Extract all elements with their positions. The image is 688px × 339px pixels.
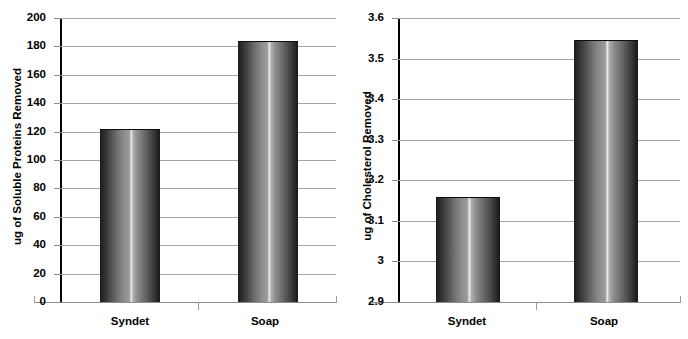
chart-panel-cholesterol: ug of Cholesterol Removed Syndet Soap 2.… xyxy=(344,0,688,339)
y-tick-label: 3.6 xyxy=(344,12,394,24)
y-tick-label: 160 xyxy=(0,69,56,81)
y-tick-label: 3.3 xyxy=(344,134,394,146)
x-axis-right-end-right xyxy=(680,296,681,303)
y-tick-label: 3.5 xyxy=(344,53,394,65)
x-axis-line-right xyxy=(372,302,680,303)
y-tick-label: 2.9 xyxy=(344,296,394,308)
figure-two-bar-charts: ug of Soluble Proteins Removed Syndet So… xyxy=(0,0,688,339)
x-axis-right-end-left xyxy=(336,296,337,303)
bar-syndet xyxy=(100,129,160,303)
y-tick-label: 140 xyxy=(0,97,56,109)
plot-area-soluble-proteins xyxy=(60,18,336,302)
gridline xyxy=(398,18,680,19)
y-tick-label: 60 xyxy=(0,211,56,223)
y-tick-label: 100 xyxy=(0,154,56,166)
y-tick-label: 3.1 xyxy=(344,215,394,227)
bar-soap xyxy=(574,40,638,303)
x-tick-label-soap-left: Soap xyxy=(205,315,325,327)
y-tick-label: 180 xyxy=(0,40,56,52)
gridline xyxy=(60,18,336,19)
x-tick-label-syndet-left: Syndet xyxy=(70,315,190,327)
y-tick-label: 200 xyxy=(0,12,56,24)
x-axis-category-separator-left xyxy=(198,302,199,310)
y-tick-label: 40 xyxy=(0,239,56,251)
x-axis-category-separator-right xyxy=(536,302,537,310)
x-tick-label-soap-right: Soap xyxy=(544,315,664,327)
y-tick-label: 20 xyxy=(0,268,56,280)
y-tick-label: 0 xyxy=(0,296,56,308)
y-tick-label: 120 xyxy=(0,126,56,138)
plot-area-cholesterol xyxy=(398,18,680,302)
y-tick-label: 3 xyxy=(344,255,394,267)
chart-panel-soluble-proteins: ug of Soluble Proteins Removed Syndet So… xyxy=(0,0,344,339)
x-axis-line-left xyxy=(34,302,336,303)
x-tick-label-syndet-right: Syndet xyxy=(407,315,527,327)
y-tick-label: 3.4 xyxy=(344,93,394,105)
y-axis-line-right xyxy=(398,18,400,302)
y-tick-label: 80 xyxy=(0,182,56,194)
y-tick-label: 3.2 xyxy=(344,174,394,186)
bar-syndet xyxy=(436,197,500,303)
bar-soap xyxy=(238,41,298,303)
